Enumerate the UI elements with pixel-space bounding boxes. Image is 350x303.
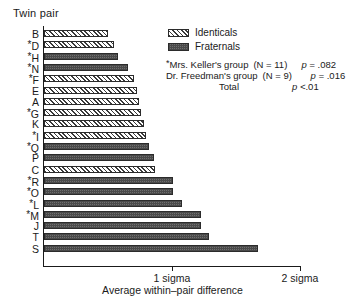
significance-notes: *Mrs. Keller's group(N = 11)p = .082Dr. … (166, 58, 342, 92)
bar-o (44, 188, 173, 195)
category-label-t: T (33, 231, 39, 243)
note-row: *Mrs. Keller's group(N = 11)p = .082 (166, 58, 342, 70)
bar-b (44, 30, 108, 37)
x-tick-label: 1 sigma (154, 272, 191, 284)
bar-e (44, 87, 137, 94)
bar-p (44, 154, 154, 161)
category-label-a: A (32, 96, 39, 108)
category-label-k: K (32, 118, 39, 130)
bar-h (44, 53, 118, 60)
bar-a (44, 98, 139, 105)
x-tick-label: 2 sigma (282, 272, 319, 284)
bar-n (44, 64, 128, 71)
bar-c (44, 166, 155, 173)
note-label: Total (166, 81, 244, 92)
note-p-value: p = .082 (301, 59, 350, 70)
category-label-j: J (34, 220, 39, 232)
legend-swatch-identicals-icon (168, 29, 189, 37)
x-tick (172, 266, 173, 271)
category-label-e: E (32, 85, 39, 97)
category-label-c: C (31, 164, 39, 176)
bar-j (44, 222, 201, 229)
note-sample-size: (N = 9) (263, 70, 311, 81)
legend-label-identicals: Identicals (195, 27, 237, 38)
bar-q (44, 143, 149, 150)
note-p-value: p = .016 (311, 70, 350, 81)
bar-l (44, 200, 182, 207)
note-row: Totalp <.01 (166, 81, 342, 92)
bar-m (44, 211, 201, 218)
note-label: *Mrs. Keller's group (166, 58, 253, 70)
bar-k (44, 120, 144, 127)
x-axis-title: Average within–pair difference (0, 284, 345, 296)
legend: Identicals Fraternals (168, 27, 340, 55)
note-row: Dr. Freedman's group(N = 9)p = .016 (166, 70, 342, 81)
note-label: Dr. Freedman's group (166, 70, 263, 81)
bar-f (44, 75, 134, 82)
bar-s (44, 245, 258, 252)
category-label-s: S (32, 243, 39, 255)
legend-item-identicals: Identicals (168, 27, 340, 38)
category-label-p: P (32, 152, 39, 164)
x-tick (300, 266, 301, 271)
note-sample-size: (N = 11) (253, 59, 301, 70)
bar-d (44, 41, 114, 48)
bar-g (44, 109, 141, 116)
legend-item-fraternals: Fraternals (168, 41, 340, 52)
bar-i (44, 132, 146, 139)
category-label-b: B (32, 28, 39, 40)
bar-t (44, 233, 209, 240)
bar-r (44, 177, 173, 184)
legend-label-fraternals: Fraternals (195, 41, 240, 52)
note-p-value: p <.01 (292, 81, 342, 92)
legend-swatch-fraternals-icon (168, 43, 189, 51)
y-axis-title: Twin pair (13, 7, 59, 19)
